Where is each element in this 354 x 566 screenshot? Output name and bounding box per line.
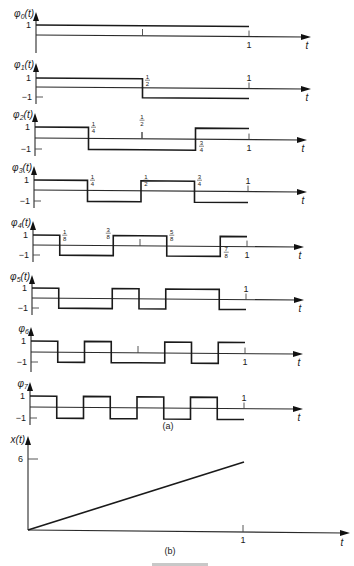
t-axis-label: t xyxy=(298,412,302,423)
t-axis xyxy=(36,35,305,37)
svg-text:3: 3 xyxy=(107,227,111,233)
ramp-panel: 6x(t)1t xyxy=(10,434,350,548)
ylabel-phi-0: φ0(t) xyxy=(14,8,34,20)
ytick-neg1: −1 xyxy=(19,250,29,260)
ytick-1: 1 xyxy=(25,122,30,132)
xtick-label-1: 1 xyxy=(246,73,251,83)
fraction-label-5-8: 58 xyxy=(169,229,174,242)
t-axis-label: t xyxy=(306,40,310,51)
panel-phi-2: 1−1φ2(t)1t141234 xyxy=(13,109,307,156)
xtick-label-1: 1 xyxy=(241,393,246,403)
svg-text:4: 4 xyxy=(200,147,204,153)
t-axis-label: t xyxy=(302,143,306,154)
xtick-label-1: 1 xyxy=(244,250,249,260)
ytick-neg1: −1 xyxy=(21,144,31,154)
fraction-label-7-8: 78 xyxy=(224,246,229,259)
caption-b: (b) xyxy=(165,546,176,556)
fraction-label-1-8: 18 xyxy=(62,229,67,242)
xtick-label-1: 1 xyxy=(242,357,247,367)
ylabel-phi-3: φ3(t) xyxy=(12,162,32,174)
svg-text:8: 8 xyxy=(107,234,111,240)
svg-text:3: 3 xyxy=(200,140,204,146)
xtick-label-1: 1 xyxy=(245,176,250,186)
t-axis-label: t xyxy=(299,303,303,314)
svg-text:4: 4 xyxy=(92,128,96,134)
t-axis-label: t xyxy=(341,537,345,548)
panel-phi-6: 1−1φ61t xyxy=(17,323,303,372)
t-axis-label: t xyxy=(306,92,310,103)
t-axis-label: t xyxy=(302,195,306,206)
panel-phi-1: 1−1φ1(t)1t12 xyxy=(14,59,311,104)
t-axis xyxy=(28,530,344,533)
svg-text:4: 4 xyxy=(91,181,95,187)
panel-phi-0: 1φ0(t)1t xyxy=(14,8,311,53)
t-axis xyxy=(33,245,298,247)
svg-text:1: 1 xyxy=(91,174,95,180)
fraction-label-1-4: 14 xyxy=(91,121,96,134)
ytick-neg1: −1 xyxy=(22,92,32,102)
ylabel-phi-6: φ6 xyxy=(19,323,30,335)
ytick-6: 6 xyxy=(18,454,23,464)
panel-phi-3: 1−1φ3(t)1t141234 xyxy=(12,162,307,208)
ylabel-phi-4: φ4(t) xyxy=(11,217,31,229)
ytick-neg1: −1 xyxy=(17,357,27,367)
svg-text:8: 8 xyxy=(170,236,174,242)
fraction-label-3-8: 38 xyxy=(106,227,111,240)
panel-phi-5: 1−1φ5(t)1t xyxy=(10,271,304,315)
ytick-1: 1 xyxy=(26,20,31,30)
y-axis-arrow-icon xyxy=(25,436,31,445)
walsh-panels-group: 1φ0(t)1t1−1φ1(t)1t121−1φ2(t)1t1412341−1φ… xyxy=(10,8,311,425)
t-axis xyxy=(36,87,305,89)
panel-phi-7: 1−1φ71t xyxy=(16,378,303,425)
ylabel-phi-2: φ2(t) xyxy=(13,109,33,121)
svg-text:1: 1 xyxy=(146,74,150,80)
figure-canvas: 1φ0(t)1t1−1φ1(t)1t121−1φ2(t)1t1412341−1φ… xyxy=(0,0,354,566)
walsh-functions-figure: 1φ0(t)1t1−1φ1(t)1t121−1φ2(t)1t1412341−1φ… xyxy=(0,0,354,566)
fraction-label-1-4: 14 xyxy=(90,174,95,187)
fraction-label-1-2: 12 xyxy=(144,174,149,187)
svg-text:3: 3 xyxy=(198,174,202,180)
svg-text:1: 1 xyxy=(140,114,144,120)
ytick-1: 1 xyxy=(20,391,25,401)
t-axis xyxy=(34,190,301,192)
ylabel-phi-7: φ7 xyxy=(18,378,30,390)
ytick-1: 1 xyxy=(26,73,31,83)
ramp-line xyxy=(28,462,244,530)
ytick-1: 1 xyxy=(21,336,26,346)
ytick-1: 1 xyxy=(23,230,28,240)
svg-text:8: 8 xyxy=(63,236,67,242)
ylabel-phi-5: φ5(t) xyxy=(10,271,30,283)
svg-text:1: 1 xyxy=(92,121,96,127)
fraction-label-1-2: 12 xyxy=(140,114,145,127)
fraction-label-1-2: 12 xyxy=(145,74,150,87)
t-axis xyxy=(35,138,301,140)
ytick-neg1: −1 xyxy=(20,196,30,206)
xtick-label-1: 1 xyxy=(246,40,251,50)
panel-phi-4: 1−1φ4(t)1t18385878 xyxy=(11,217,304,262)
svg-text:5: 5 xyxy=(170,229,174,235)
fraction-label-3-4: 34 xyxy=(197,174,202,187)
ytick-neg1: −1 xyxy=(18,303,28,313)
svg-text:2: 2 xyxy=(146,81,150,87)
ylabel-phi-1: φ1(t) xyxy=(14,59,34,71)
ytick-1: 1 xyxy=(22,283,27,293)
xtick-label-1: 1 xyxy=(240,535,245,545)
t-axis-label: t xyxy=(298,357,302,368)
ytick-neg1: −1 xyxy=(16,413,26,423)
svg-text:1: 1 xyxy=(144,174,148,180)
caption-a: (a) xyxy=(163,421,174,431)
ylabel-x-of-t: x(t) xyxy=(10,434,25,445)
svg-text:1: 1 xyxy=(63,229,67,235)
svg-text:4: 4 xyxy=(198,181,202,187)
svg-text:2: 2 xyxy=(140,121,144,127)
t-axis-arrow-icon xyxy=(340,530,350,536)
ytick-1: 1 xyxy=(24,175,29,185)
xtick-label-1: 1 xyxy=(246,143,251,153)
xtick-label-1: 1 xyxy=(243,284,248,294)
waveform-phi-0 xyxy=(36,25,249,27)
fraction-label-3-4: 34 xyxy=(199,140,204,153)
t-axis-label: t xyxy=(299,250,303,261)
svg-text:8: 8 xyxy=(225,253,229,259)
